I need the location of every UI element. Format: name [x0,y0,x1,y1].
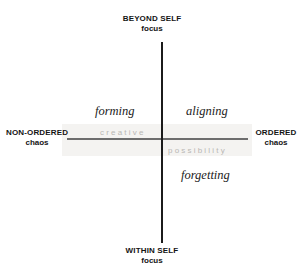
quadrant-label-bottom-right: forgetting [181,168,230,183]
centre-label-creative: creative [100,128,146,137]
quadrant-diagram: BEYOND SELF focus WITHIN SELF focus NON-… [0,0,304,279]
vertical-axis-line [161,42,163,243]
axis-label-bottom-major: WITHIN SELF [0,246,304,256]
axis-label-top: BEYOND SELF focus [0,14,304,34]
axis-label-bottom-minor: focus [0,256,304,266]
axis-label-left: NON-ORDERED chaos [6,128,68,148]
quadrant-label-top-left: forming [95,104,135,119]
axis-label-left-major: NON-ORDERED [6,128,68,138]
centre-label-possibility: possibility [168,146,227,155]
axis-label-top-major: BEYOND SELF [0,14,304,24]
quadrant-label-top-right: aligning [186,104,228,119]
axis-label-right-minor: chaos [250,138,302,148]
axis-label-bottom: WITHIN SELF focus [0,246,304,266]
axis-label-right-major: ORDERED [250,128,302,138]
horizontal-axis-line [67,138,248,140]
axis-label-top-minor: focus [0,24,304,34]
axis-label-right: ORDERED chaos [250,128,302,148]
axis-label-left-minor: chaos [6,138,68,148]
